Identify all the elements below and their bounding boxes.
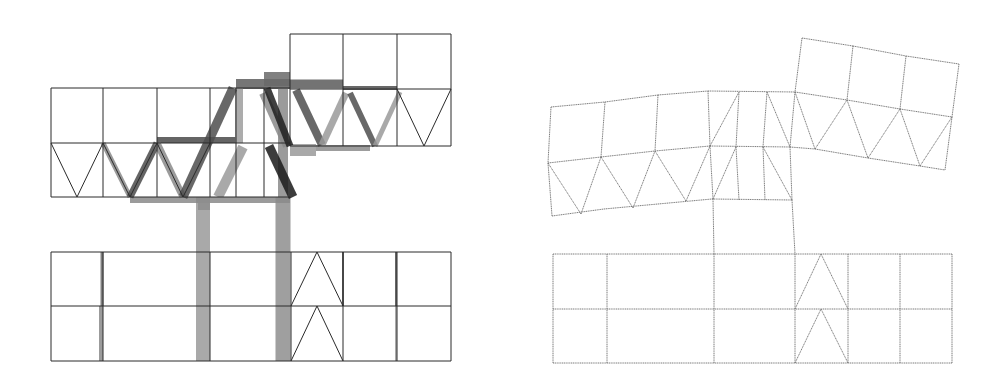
- deformed-member: [795, 92, 847, 100]
- deformed-member: [853, 46, 906, 56]
- deformed-member: [736, 92, 739, 147]
- deformed-member: [847, 100, 900, 109]
- deformed-member: [552, 209, 604, 216]
- deformed-member: [713, 199, 714, 254]
- deformed-member: [548, 107, 551, 163]
- deformed-member: [708, 91, 710, 146]
- deformed-member: [900, 109, 952, 117]
- deformed-member: [795, 92, 815, 149]
- deformed-member: [708, 91, 795, 92]
- deformed-member: [906, 56, 959, 64]
- deformed-member: [601, 157, 633, 208]
- deformed-member: [551, 102, 605, 107]
- deformed-member: [920, 166, 945, 170]
- deformed-member: [548, 163, 581, 214]
- deformed-member: [655, 95, 658, 151]
- deformed-member: [548, 157, 601, 163]
- deformed-member: [686, 146, 710, 201]
- deformed-member: [790, 92, 795, 147]
- deformed-member: [815, 100, 847, 149]
- deformed-member: [795, 38, 802, 92]
- deformed-member: [736, 147, 739, 200]
- deformed-member: [815, 149, 868, 158]
- deformed-member: [710, 146, 790, 147]
- deformed-member: [847, 46, 853, 100]
- deformed-member: [601, 151, 655, 157]
- deformed-member: [868, 158, 920, 166]
- deformed-member: [548, 163, 552, 216]
- deformed-member: [821, 254, 848, 309]
- deformed-member: [763, 147, 765, 200]
- deformed-member: [945, 117, 952, 170]
- deformed-member: [601, 102, 605, 157]
- deformed-member: [868, 109, 900, 158]
- right-panel-deformed-shape: [0, 0, 995, 386]
- deformed-member: [792, 200, 795, 254]
- deformed-member: [655, 151, 686, 201]
- deformed-member: [790, 147, 815, 149]
- deformed-member: [713, 147, 736, 199]
- deformed-frame-members: [548, 38, 959, 363]
- deformed-member: [605, 95, 658, 102]
- deformed-member: [763, 147, 792, 200]
- deformed-member: [795, 309, 821, 363]
- deformed-member: [900, 109, 920, 166]
- deformed-member: [795, 254, 821, 309]
- deformed-member: [658, 199, 712, 204]
- deformed-member: [821, 309, 848, 363]
- deformed-member: [633, 151, 655, 208]
- deformed-member: [763, 92, 767, 147]
- deformed-member: [581, 157, 601, 214]
- figure-stage: [0, 0, 995, 386]
- deformed-member: [802, 38, 853, 46]
- deformed-member: [790, 147, 792, 200]
- deformed-member: [712, 199, 792, 200]
- deformed-member: [710, 146, 713, 199]
- deformed-member: [767, 92, 790, 147]
- deformed-member: [900, 56, 906, 109]
- deformed-member: [710, 92, 739, 146]
- deformed-member: [847, 100, 868, 158]
- deformed-member: [920, 117, 952, 166]
- deformed-member: [655, 146, 710, 151]
- deformed-member: [952, 64, 959, 117]
- deformed-member: [658, 91, 708, 95]
